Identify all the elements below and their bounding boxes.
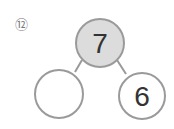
top-value: 7 bbox=[92, 28, 108, 59]
number-bond-diagram: 7 6 bbox=[0, 0, 174, 129]
connector-left bbox=[75, 60, 82, 72]
right-value: 6 bbox=[134, 81, 150, 112]
left-circle-answer[interactable] bbox=[35, 70, 83, 118]
number-bond-problem: ⑫ 7 6 bbox=[0, 0, 174, 129]
connector-right bbox=[117, 60, 126, 74]
